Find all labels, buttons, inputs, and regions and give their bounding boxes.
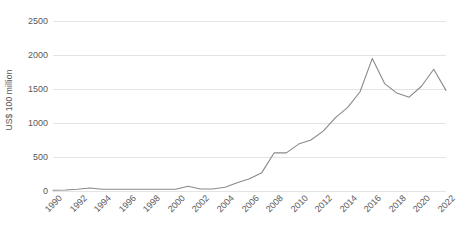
x-axis-tick-label: 1998 — [141, 193, 162, 214]
x-axis-tick-label: 2000 — [166, 193, 187, 214]
x-axis-tick-label: 2016 — [362, 193, 383, 214]
x-axis-tick-labels: 1990199219941996199820002002200420062008… — [53, 193, 453, 240]
x-axis-tick-label: 2020 — [411, 193, 432, 214]
x-axis-tick-label: 2008 — [264, 193, 285, 214]
y-axis-title-label: US$ 100 million — [4, 69, 14, 130]
series-line — [53, 58, 446, 190]
x-axis-tick-label: 2010 — [288, 193, 309, 214]
x-axis-tick-label: 2002 — [190, 193, 211, 214]
line-chart: US$ 100 million 05001000150020002500 199… — [0, 0, 459, 240]
x-axis-tick-label: 2012 — [313, 193, 334, 214]
x-axis-tick-label: 2004 — [215, 193, 236, 214]
series-line-group — [53, 21, 446, 191]
y-axis-tick-label: 500 — [14, 152, 53, 162]
x-axis-tick-label: 2006 — [239, 193, 260, 214]
y-axis-tick-label: 2000 — [14, 50, 53, 60]
x-axis-tick-label: 1994 — [92, 193, 113, 214]
y-axis-tick-label: 0 — [14, 186, 53, 196]
x-axis-tick-label: 2018 — [387, 193, 408, 214]
gridline — [53, 191, 446, 192]
plot-area — [53, 21, 446, 191]
x-axis-tick-label: 1992 — [67, 193, 88, 214]
y-axis-tick-label: 1000 — [14, 118, 53, 128]
x-axis-tick-label: 2022 — [436, 193, 457, 214]
x-axis-tick-label: 1996 — [117, 193, 138, 214]
x-axis-tick-label: 2014 — [338, 193, 359, 214]
y-axis-tick-label: 2500 — [14, 16, 53, 26]
y-axis-tick-label: 1500 — [14, 84, 53, 94]
